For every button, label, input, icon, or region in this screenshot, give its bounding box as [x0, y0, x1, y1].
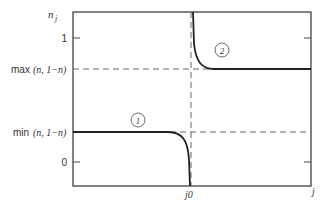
curve-2-marker-label: 2: [220, 46, 225, 56]
tick-label-max-args: (n, 1−n): [33, 64, 67, 76]
plot-frame: [73, 12, 311, 186]
tick-label-min: min: [13, 127, 29, 138]
diagram-canvas: 1 2 n j 1 0 max (n, 1−n) min (n, 1−n) j0…: [0, 0, 325, 206]
curve-1: [73, 132, 190, 186]
y-axis-label-subscript: j: [54, 14, 58, 23]
tick-label-min-args: (n, 1−n): [33, 127, 67, 139]
tick-label-max: max: [11, 64, 30, 75]
x-axis-label: j: [310, 186, 315, 197]
y-axis-label: n: [48, 8, 54, 20]
tick-label-zero: 0: [61, 157, 67, 168]
curve-2: [193, 12, 311, 69]
tick-label-one: 1: [61, 33, 67, 44]
tick-label-j0: j0: [183, 189, 193, 200]
curve-1-marker-label: 1: [136, 116, 141, 126]
